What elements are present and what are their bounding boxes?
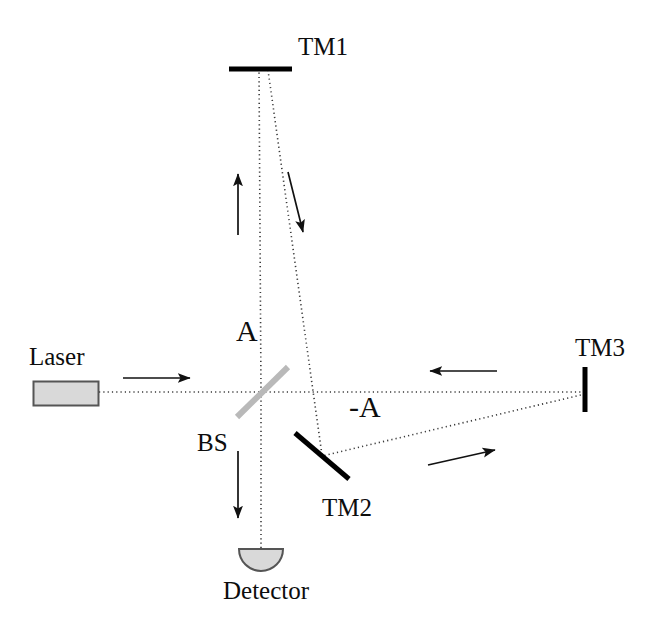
diagram-canvas — [0, 0, 655, 628]
label-bs: BS — [197, 430, 228, 455]
label-laser: Laser — [29, 344, 85, 369]
arrow-down-from-tm1 — [288, 172, 303, 232]
label-tm1: TM1 — [298, 34, 348, 59]
label-tm3: TM3 — [575, 335, 625, 360]
label-amplitude-negative: -A — [349, 392, 381, 422]
beam-splitter[interactable] — [237, 367, 288, 417]
laser-source[interactable] — [34, 382, 99, 406]
arrow-toward-tm3 — [428, 450, 495, 465]
beam-bs-to-tm1 — [259, 69, 261, 392]
detector-element[interactable] — [239, 549, 283, 571]
label-tm2: TM2 — [322, 495, 372, 520]
beam-tm1-to-tm2 — [268, 70, 322, 455]
interferometer-diagram: TM1 TM3 TM2 Laser BS Detector A -A — [0, 0, 655, 628]
label-detector: Detector — [223, 578, 309, 603]
label-amplitude-positive: A — [236, 316, 258, 346]
test-mass-2-mirror[interactable] — [295, 433, 349, 479]
